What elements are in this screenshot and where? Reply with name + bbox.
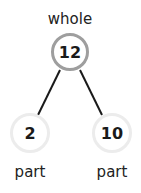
left-part-node: 2 (10, 113, 50, 153)
right-part-node: 10 (92, 113, 132, 153)
right-part-label: part (82, 163, 141, 181)
line-whole-to-right-part (80, 70, 102, 115)
line-whole-to-left-part (38, 70, 60, 115)
whole-node: 12 (51, 33, 89, 71)
left-part-label: part (0, 163, 60, 181)
whole-label: whole (40, 10, 100, 28)
